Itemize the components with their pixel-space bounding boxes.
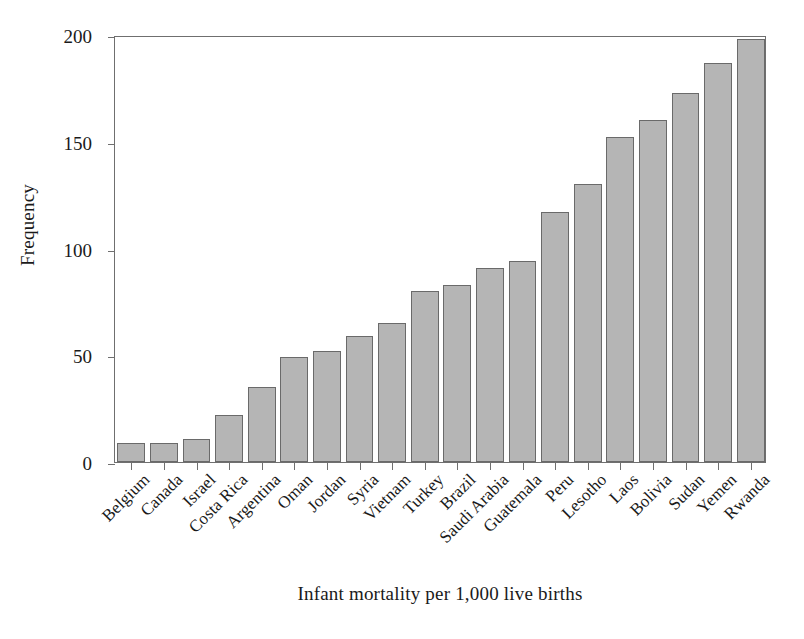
x-tick-mark xyxy=(229,462,230,470)
plot-area xyxy=(114,36,766,463)
bar xyxy=(183,439,211,462)
bar xyxy=(574,184,602,462)
y-tick-label: 0 xyxy=(46,454,92,473)
bar xyxy=(737,39,765,462)
x-tick-mark xyxy=(327,462,328,470)
x-tick-mark xyxy=(490,462,491,470)
x-tick-mark xyxy=(360,462,361,470)
x-tick-mark xyxy=(718,462,719,470)
bar-chart-figure: Frequency 050100150200 BelgiumCanadaIsra… xyxy=(0,0,804,639)
bar xyxy=(704,63,732,462)
bar xyxy=(443,285,471,462)
bar xyxy=(476,268,504,462)
bar xyxy=(248,387,276,462)
y-tick-label: 100 xyxy=(46,240,92,259)
x-tick-mark xyxy=(523,462,524,470)
x-tick-mark xyxy=(555,462,556,470)
y-tick-label: 200 xyxy=(46,27,92,46)
bar xyxy=(215,415,243,462)
x-tick-mark xyxy=(262,462,263,470)
bar-series xyxy=(115,37,765,462)
bar xyxy=(313,351,341,462)
x-tick-mark xyxy=(131,462,132,470)
y-tick-mark xyxy=(108,37,115,38)
x-tick-mark xyxy=(686,462,687,470)
y-tick-mark xyxy=(108,144,115,145)
bar xyxy=(150,443,178,462)
y-tick-mark xyxy=(108,357,115,358)
y-axis-title: Frequency xyxy=(17,135,39,315)
x-tick-mark xyxy=(457,462,458,470)
x-tick-mark xyxy=(620,462,621,470)
bar xyxy=(378,323,406,462)
bar xyxy=(411,291,439,462)
x-tick-mark xyxy=(425,462,426,470)
bar xyxy=(606,137,634,462)
bar xyxy=(280,357,308,462)
bar xyxy=(639,120,667,462)
bar xyxy=(672,93,700,462)
x-tick-mark xyxy=(197,462,198,470)
x-tick-mark xyxy=(751,462,752,470)
x-tick-mark xyxy=(392,462,393,470)
y-tick-mark xyxy=(108,251,115,252)
x-axis-tick-labels: BelgiumCanadaIsraelCosta RicaArgentinaOm… xyxy=(114,470,766,580)
y-tick-label: 150 xyxy=(46,133,92,152)
x-tick-mark xyxy=(294,462,295,470)
bar xyxy=(117,443,145,462)
x-axis-title: Infant mortality per 1,000 live births xyxy=(114,583,766,605)
x-tick-mark xyxy=(653,462,654,470)
bar xyxy=(509,261,537,462)
y-tick-label: 50 xyxy=(46,347,92,366)
x-tick-mark xyxy=(164,462,165,470)
y-tick-mark xyxy=(108,464,115,465)
x-tick-mark xyxy=(588,462,589,470)
bar xyxy=(541,212,569,462)
y-axis-tick-labels: 050100150200 xyxy=(40,0,92,639)
bar xyxy=(346,336,374,462)
